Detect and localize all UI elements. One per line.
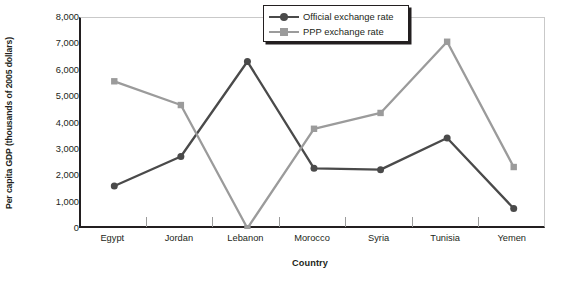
y-tick-label: 8,000 (39, 12, 79, 22)
data-point (510, 205, 517, 212)
data-point (377, 110, 383, 116)
series-line-official (114, 62, 513, 209)
x-tick-mark (279, 217, 280, 227)
data-point (444, 39, 450, 45)
x-tick-mark (146, 217, 147, 227)
x-tick-mark (212, 217, 213, 227)
data-point (311, 165, 318, 172)
series-lines (81, 18, 547, 229)
x-tick-mark (478, 217, 479, 227)
data-point (178, 102, 184, 108)
data-point (177, 153, 184, 160)
x-tick-label: Yemen (467, 233, 557, 243)
data-point (111, 183, 118, 190)
x-axis-title: Country (90, 258, 530, 268)
data-point (444, 135, 451, 142)
legend-item-official: Official exchange rate (269, 9, 408, 24)
legend-label-ppp: PPP exchange rate (299, 26, 384, 38)
data-point (244, 58, 251, 65)
chart-legend: Official exchange rate PPP exchange rate (263, 5, 409, 42)
y-tick-label: 6,000 (39, 65, 79, 75)
y-tick-label: 5,000 (39, 91, 79, 101)
legend-label-official: Official exchange rate (299, 11, 394, 23)
legend-swatch-official-icon (269, 11, 299, 23)
y-tick-label: 4,000 (39, 118, 79, 128)
y-axis-title: Per capita GDP (thousands of 2005 dollar… (2, 8, 16, 238)
data-point (511, 164, 517, 170)
series-line-ppp (114, 42, 513, 228)
x-tick-mark (412, 217, 413, 227)
data-point (311, 126, 317, 132)
data-point (377, 166, 384, 173)
x-tick-mark (345, 217, 346, 227)
y-tick-label: 3,000 (39, 144, 79, 154)
y-tick-label: 2,000 (39, 170, 79, 180)
legend-item-ppp: PPP exchange rate (269, 24, 408, 39)
y-tick-label: 7,000 (39, 38, 79, 48)
data-point (111, 78, 117, 84)
data-point (244, 225, 250, 229)
plot-area (79, 17, 545, 228)
legend-swatch-ppp-icon (269, 26, 299, 38)
y-tick-label: 1,000 (39, 197, 79, 207)
y-tick-label: 0 (39, 223, 79, 233)
chart-container: Per capita GDP (thousands of 2005 dollar… (0, 0, 561, 281)
